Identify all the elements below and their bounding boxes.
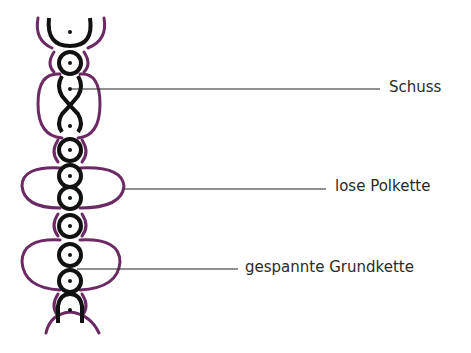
leader-lines [72,89,380,269]
label-gespannte-grundkette: gespannte Grundkette [245,260,414,275]
label-lose-polkette: lose Polkette [335,179,430,194]
pile-warp-loops [22,18,124,333]
label-schuss: Schuss [389,80,441,95]
